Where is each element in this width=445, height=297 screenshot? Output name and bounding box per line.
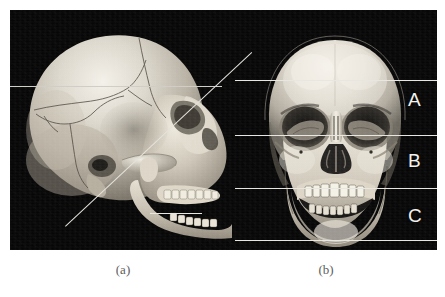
frontal-guide-trichion	[235, 80, 437, 81]
region-label-b: B	[408, 151, 421, 170]
lateral-horizontal-guide-upper	[10, 86, 222, 87]
lateral-short-guide-lower	[150, 213, 202, 214]
region-label-a: A	[408, 90, 421, 109]
frontal-skull-render	[235, 10, 437, 250]
upper-teeth-lateral	[164, 190, 218, 199]
frontal-guide-subnasale	[235, 188, 437, 189]
lateral-skull-view	[10, 10, 235, 250]
upper-teeth-frontal	[305, 183, 364, 197]
frontal-skull-view: A B C	[235, 10, 437, 250]
infraorbital-foramen-left	[299, 150, 302, 153]
caption-b: (b)	[296, 262, 356, 278]
frontal-guide-menton	[235, 240, 437, 241]
nasal-bones	[330, 111, 343, 142]
anatomical-figure: A B C (a) (b)	[0, 0, 445, 297]
infraorbital-foramen-right	[369, 150, 372, 153]
frontal-guide-glabella	[235, 135, 437, 136]
region-label-c: C	[408, 206, 422, 225]
lateral-skull-render	[10, 10, 235, 250]
caption-a: (a)	[93, 262, 153, 278]
figure-image-plate: A B C	[10, 10, 437, 250]
